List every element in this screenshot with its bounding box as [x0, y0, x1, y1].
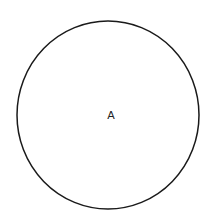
diagram-canvas: A [0, 0, 210, 223]
circle-a-label: A [107, 109, 115, 122]
